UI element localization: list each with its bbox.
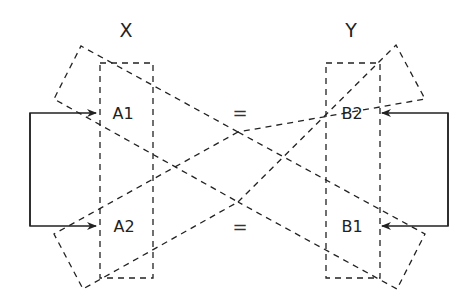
left-top-wedge <box>54 46 238 202</box>
left-bottom-wedge <box>54 132 238 289</box>
diagram-lines <box>0 0 471 306</box>
left-loop-arrow-a2 <box>30 113 96 226</box>
right-group-title: Y <box>345 19 357 41</box>
right-loop-arrow-b1 <box>382 113 448 226</box>
right-loop-arrow-b2 <box>382 113 448 226</box>
left-group-title: X <box>119 19 132 41</box>
label-b2: B2 <box>341 104 362 123</box>
label-a2: A2 <box>113 217 134 236</box>
equals-top: = <box>232 102 247 123</box>
right-box <box>326 63 380 278</box>
equals-bottom: = <box>232 216 247 237</box>
left-loop-arrow-a1 <box>30 113 96 226</box>
left-box <box>100 63 153 278</box>
label-b1: B1 <box>341 217 362 236</box>
diagram-canvas: X Y A1 A2 B2 B1 = = <box>0 0 471 306</box>
right-bottom-wedge <box>238 132 425 289</box>
label-a1: A1 <box>112 104 133 123</box>
right-top-wedge <box>238 45 425 202</box>
